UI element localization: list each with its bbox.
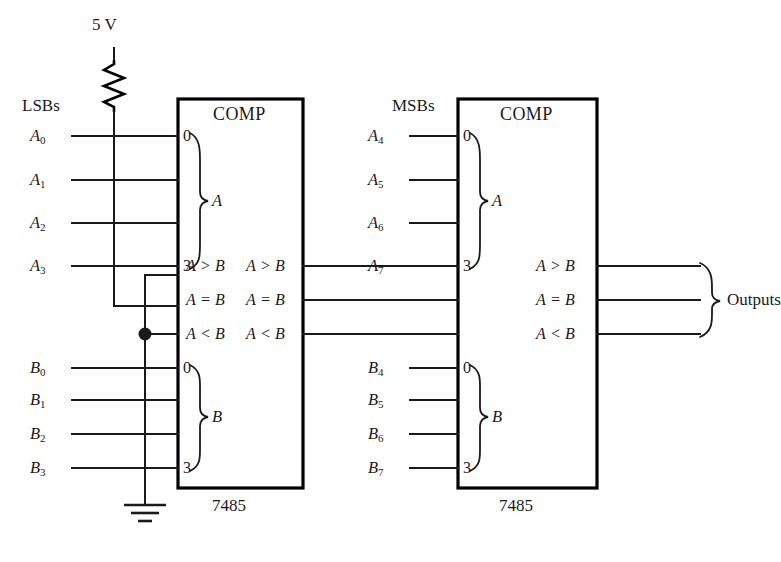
signal-label-a7: A7 <box>368 258 384 276</box>
signal-label-a6: A6 <box>368 215 384 233</box>
signal-label-a4: A4 <box>368 128 384 146</box>
signal-label-b2: B2 <box>30 426 46 444</box>
msb-comp-symbol-label: COMP <box>500 105 553 123</box>
signal-label-a2: A2 <box>30 215 46 233</box>
msb-b-group-letter: B <box>492 409 502 426</box>
signal-label-b0: B0 <box>30 360 46 378</box>
signal-label-b1: B1 <box>30 392 46 410</box>
pull-up-resistor-symbol <box>104 60 124 112</box>
lsb-cascade-output-altb-label: A < B <box>246 326 285 342</box>
signal-label-b7: B7 <box>368 460 384 478</box>
msb-comparator-body <box>458 99 597 488</box>
msb-cascade-output-aeqb-label: A = B <box>536 292 575 308</box>
signal-label-a3: A3 <box>30 258 46 276</box>
lsb-cascade-input-agtb-label: A > B <box>186 258 225 274</box>
msb-b-pin-last-label: 3 <box>463 460 471 476</box>
lsb-b-pin-last-label: 3 <box>183 460 191 476</box>
lsb-cascade-input-altb-label: A < B <box>186 326 225 342</box>
lsb-cascade-output-aeqb-label: A = B <box>246 292 285 308</box>
outputs-group-label: Outputs <box>727 291 781 308</box>
signal-label-a1: A1 <box>30 172 46 190</box>
msb-part-number-label: 7485 <box>499 497 533 514</box>
msb-a-pin-last-label: 3 <box>463 258 471 274</box>
lsb-a-pin-first-label: 0 <box>183 128 191 144</box>
lsb-b-group-letter: B <box>212 409 222 426</box>
signal-label-b3: B3 <box>30 460 46 478</box>
signal-label-b6: B6 <box>368 426 384 444</box>
lsb-cascade-input-aeqb-label: A = B <box>186 292 225 308</box>
supply-label: 5 V <box>92 16 117 33</box>
outputs-brace <box>700 263 720 337</box>
lsb-cascade-output-agtb-label: A > B <box>246 258 285 274</box>
signal-label-b4: B4 <box>368 360 384 378</box>
msb-cascade-output-agtb-label: A > B <box>536 258 575 274</box>
signal-label-b5: B5 <box>368 392 384 410</box>
cascade-agtb-stub-wire <box>145 275 178 283</box>
msb-a-group-letter: A <box>492 193 502 210</box>
msb-group-label: MSBs <box>392 97 435 114</box>
junction-dot <box>139 328 152 341</box>
lsb-comp-symbol-label: COMP <box>213 105 266 123</box>
signal-label-a5: A5 <box>368 172 384 190</box>
msb-cascade-output-altb-label: A < B <box>536 326 575 342</box>
lsb-a-group-letter: A <box>212 193 222 210</box>
msb-b-pin-first-label: 0 <box>463 360 471 376</box>
msb-a-pin-first-label: 0 <box>463 128 471 144</box>
signal-label-a0: A0 <box>30 128 46 146</box>
lsb-part-number-label: 7485 <box>212 497 246 514</box>
lsb-group-label: LSBs <box>22 97 60 114</box>
lsb-b-pin-first-label: 0 <box>183 360 191 376</box>
